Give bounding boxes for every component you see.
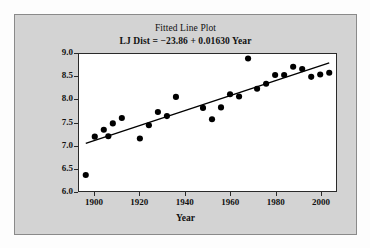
x-tick-label: 1940 xyxy=(168,197,202,207)
x-tick-mark xyxy=(276,192,277,196)
data-point xyxy=(326,70,332,76)
data-point xyxy=(92,134,98,140)
data-point xyxy=(173,94,179,100)
x-tick-mark xyxy=(139,192,140,196)
x-tick-mark xyxy=(321,192,322,196)
y-tick-label: 9.0 xyxy=(47,47,73,57)
y-tick-label: 8.0 xyxy=(47,93,73,103)
y-tick-mark xyxy=(74,146,78,147)
figure-panel-inner: Fitted Line Plot LJ Dist = −23.86 + 0.01… xyxy=(17,17,354,232)
x-tick-label: 1920 xyxy=(122,197,156,207)
y-tick-label: 7.5 xyxy=(47,117,73,127)
data-point xyxy=(218,104,224,110)
chart-subtitle-equation: LJ Dist = −23.86 + 0.01630 Year xyxy=(17,36,354,46)
data-point xyxy=(317,71,323,77)
x-tick-label: 2000 xyxy=(304,197,338,207)
y-tick-label: 6.0 xyxy=(47,186,73,196)
x-tick-label: 1980 xyxy=(259,197,293,207)
y-tick-mark xyxy=(74,169,78,170)
data-point xyxy=(83,172,89,178)
y-tick-mark xyxy=(74,53,78,54)
data-point xyxy=(245,56,251,62)
data-point xyxy=(308,74,314,80)
x-tick-label: 1900 xyxy=(77,197,111,207)
data-point xyxy=(110,120,116,126)
chart-title: Fitted Line Plot xyxy=(17,23,354,33)
data-point xyxy=(272,72,278,78)
data-point xyxy=(137,135,143,141)
x-tick-mark xyxy=(230,192,231,196)
data-point xyxy=(119,115,125,121)
y-tick-mark xyxy=(74,99,78,100)
y-tick-mark xyxy=(74,192,78,193)
y-tick-mark xyxy=(74,76,78,77)
x-axis-label: Year xyxy=(17,213,354,223)
y-tick-label: 7.0 xyxy=(47,140,73,150)
data-point xyxy=(209,116,215,122)
data-point xyxy=(155,109,161,115)
data-point xyxy=(290,64,296,70)
plot-area xyxy=(78,53,337,192)
x-tick-label: 1960 xyxy=(213,197,247,207)
scatter-plot-svg xyxy=(79,54,336,191)
figure-root: Fitted Line Plot LJ Dist = −23.86 + 0.01… xyxy=(0,0,370,248)
y-tick-mark xyxy=(74,123,78,124)
regression-line xyxy=(86,63,329,143)
x-tick-mark xyxy=(185,192,186,196)
y-tick-label: 8.5 xyxy=(47,70,73,80)
x-tick-mark xyxy=(94,192,95,196)
data-point xyxy=(101,127,107,133)
y-tick-label: 6.5 xyxy=(47,163,73,173)
data-point xyxy=(236,93,242,99)
figure-panel: Fitted Line Plot LJ Dist = −23.86 + 0.01… xyxy=(14,14,357,235)
